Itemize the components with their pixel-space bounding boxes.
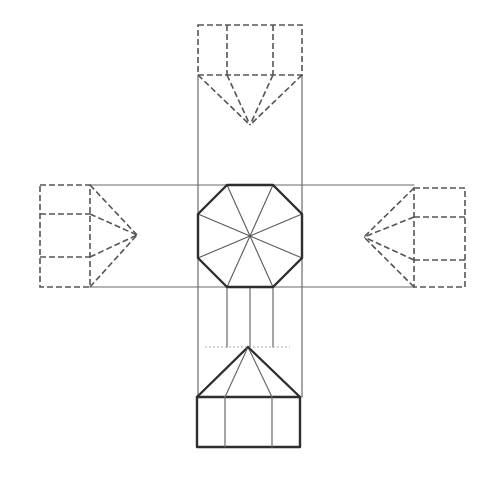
base-rectangle [198, 25, 302, 75]
top-elevation-view [198, 25, 302, 125]
base-rectangle [414, 188, 465, 287]
radial-edge-line [250, 214, 302, 236]
pyramid-edge-line [364, 188, 414, 237]
pyramid-edge-line [197, 347, 248, 397]
pyramid-edge-line [364, 217, 414, 237]
bottom-elevation-view [197, 347, 300, 447]
pyramid-edge-line [248, 347, 300, 397]
radial-edge-line [250, 236, 302, 258]
pyramid-edge-line [225, 347, 248, 397]
pyramid-edge-line [198, 75, 250, 125]
radial-edge-line [227, 236, 250, 287]
left-elevation-view [40, 185, 137, 287]
base-rectangle [197, 397, 300, 447]
pyramid-edge-line [250, 75, 273, 125]
pyramid-edge-line [90, 235, 137, 257]
pyramid-edge-line [90, 214, 137, 235]
right-elevation-view [364, 188, 465, 287]
pyramid-edge-line [248, 347, 272, 397]
octagon-plan-view [198, 185, 302, 287]
pyramid-edge-line [250, 75, 302, 125]
radial-edge-line [198, 236, 250, 258]
pyramid-edge-line [227, 75, 250, 125]
radial-edge-line [250, 185, 273, 236]
radial-edge-line [227, 185, 250, 236]
pyramid-edge-line [90, 185, 137, 235]
pyramid-edge-line [364, 237, 414, 287]
projection-drawing [0, 0, 497, 482]
pyramid-edge-line [90, 235, 137, 287]
base-rectangle [40, 185, 90, 287]
pyramid-edge-line [364, 237, 414, 260]
radial-edge-line [250, 236, 273, 287]
radial-edge-line [198, 214, 250, 236]
